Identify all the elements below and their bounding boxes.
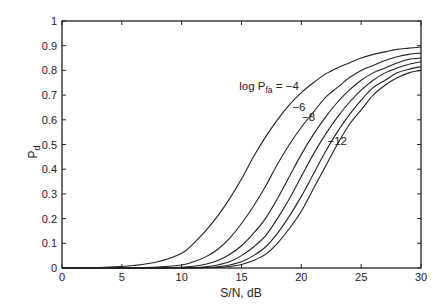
y-axis-label-sub: d (32, 145, 42, 150)
x-tick-label: 0 (59, 271, 65, 283)
y-tick-label: 0.6 (42, 114, 57, 126)
detection-probability-chart: 05101520253000.10.20.30.40.50.60.70.80.9… (0, 0, 447, 308)
annotations: log Pfa = −4−6−8−12 (239, 80, 347, 146)
x-tick-label: 5 (119, 271, 125, 283)
x-axis-label: S/N, dB (220, 286, 261, 300)
x-tick-label: 10 (176, 271, 188, 283)
y-tick-label: 0.9 (42, 40, 57, 52)
y-axis-label: Pd (26, 145, 42, 158)
x-tick-label: 25 (355, 271, 367, 283)
curve-annotation: −12 (327, 135, 347, 147)
y-tick-label: 0.1 (42, 237, 57, 249)
axes (62, 21, 421, 268)
y-tick-label: 0 (51, 262, 57, 274)
y-tick-label: 0.3 (42, 188, 57, 200)
svg-text:Pd: Pd (26, 145, 42, 158)
x-tick-label: 30 (415, 271, 427, 283)
y-tick-label: 0.2 (42, 213, 57, 225)
y-tick-label: 0.7 (42, 89, 57, 101)
plot-frame (62, 21, 421, 268)
curve-annotation: −8 (302, 111, 315, 123)
y-tick-label: 0.8 (42, 64, 57, 76)
y-tick-label: 0.5 (42, 139, 57, 151)
y-axis-label-main: P (26, 151, 40, 159)
x-tick-label: 20 (295, 271, 307, 283)
x-tick-label: 15 (235, 271, 247, 283)
curve-annotation: log Pfa = −4 (239, 80, 299, 95)
y-tick-label: 1 (51, 15, 57, 27)
y-tick-label: 0.4 (42, 163, 57, 175)
curve-series-5 (62, 70, 421, 268)
curve-series-4 (62, 67, 421, 268)
